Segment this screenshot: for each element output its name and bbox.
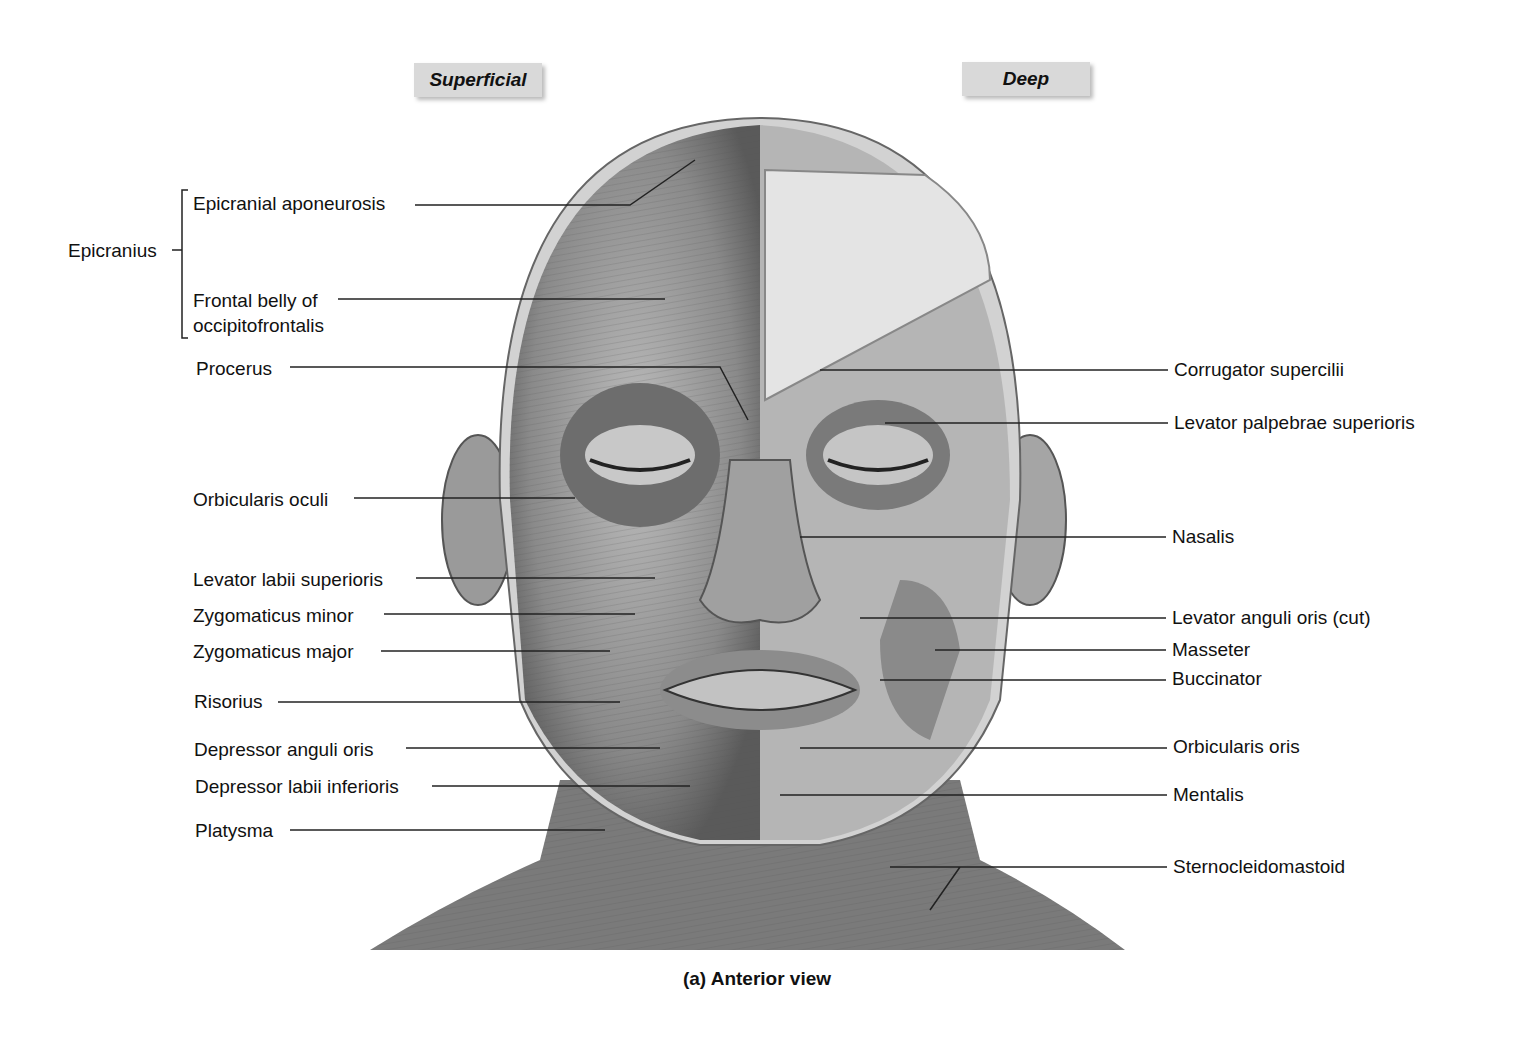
deep-header: Deep	[962, 62, 1090, 96]
right-label: Corrugator supercilii	[1174, 359, 1344, 381]
left-label: occipitofrontalis	[193, 315, 324, 337]
right-label: Mentalis	[1173, 784, 1244, 806]
left-label: Procerus	[196, 358, 272, 380]
left-label: Orbicularis oculi	[193, 489, 328, 511]
left-label: Depressor labii inferioris	[195, 776, 399, 798]
right-label: Buccinator	[1172, 668, 1262, 690]
head-illustration	[0, 0, 1514, 1039]
left-label: Levator labii superioris	[193, 569, 383, 591]
left-label: Platysma	[195, 820, 273, 842]
right-label: Levator palpebrae superioris	[1174, 412, 1415, 434]
figure-caption: (a) Anterior view	[0, 968, 1514, 990]
superficial-header: Superficial	[414, 63, 542, 97]
right-label: Nasalis	[1172, 526, 1234, 548]
left-label: Zygomaticus major	[193, 641, 354, 663]
left-label: Epicranial aponeurosis	[193, 193, 385, 215]
right-label: Orbicularis oris	[1173, 736, 1300, 758]
left-label: Zygomaticus minor	[193, 605, 354, 627]
left-label: Depressor anguli oris	[194, 739, 374, 761]
left-label: Risorius	[194, 691, 263, 713]
right-label: Levator anguli oris (cut)	[1172, 607, 1371, 629]
epicranius-label: Epicranius	[68, 240, 157, 262]
right-label: Sternocleidomastoid	[1173, 856, 1345, 878]
left-label: Frontal belly of	[193, 290, 318, 312]
right-label: Masseter	[1172, 639, 1250, 661]
